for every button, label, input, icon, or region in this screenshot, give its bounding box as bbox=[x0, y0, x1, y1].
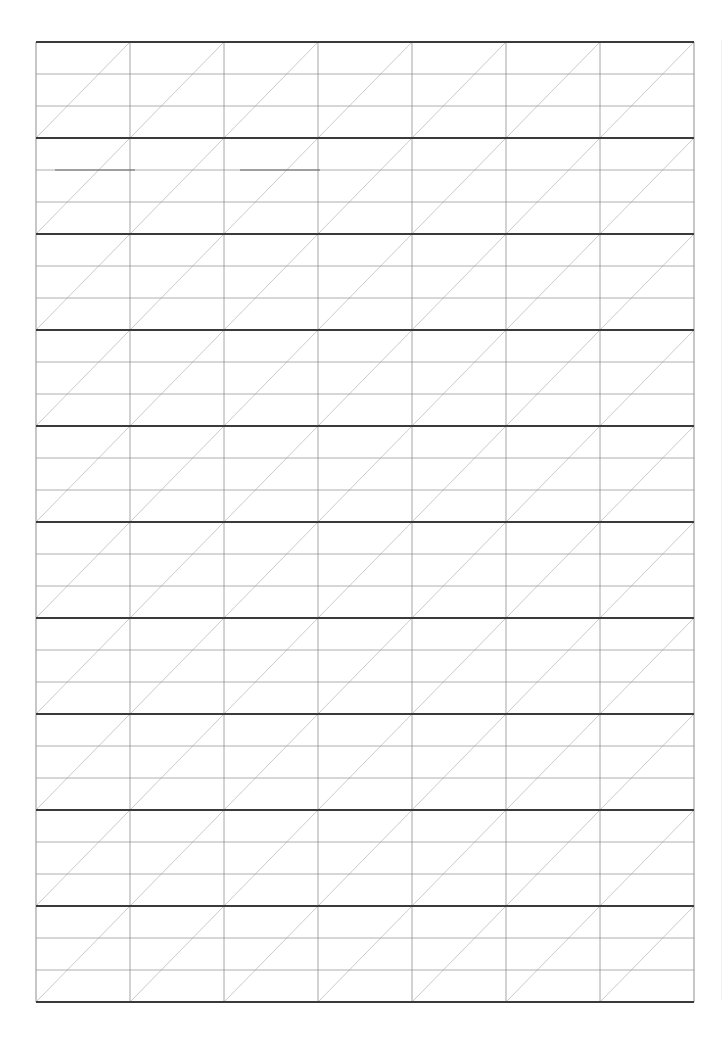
cell-diagonal bbox=[36, 330, 130, 426]
cell-diagonal bbox=[600, 42, 694, 138]
cell-diagonal bbox=[224, 906, 318, 1002]
cell-diagonal bbox=[318, 330, 412, 426]
cell-diagonal bbox=[318, 522, 412, 618]
cell-diagonal bbox=[600, 522, 694, 618]
cell-diagonal bbox=[224, 522, 318, 618]
cell-diagonal bbox=[224, 714, 318, 810]
cell-diagonal bbox=[412, 714, 506, 810]
cell-diagonal bbox=[36, 138, 130, 234]
cell-diagonal bbox=[318, 810, 412, 906]
cell-diagonal bbox=[224, 618, 318, 714]
cell-diagonal bbox=[412, 234, 506, 330]
cell-diagonal bbox=[412, 42, 506, 138]
cell-diagonal bbox=[130, 714, 224, 810]
cell-diagonal bbox=[130, 234, 224, 330]
cell-diagonal bbox=[318, 714, 412, 810]
cell-diagonal bbox=[224, 234, 318, 330]
cell-diagonal bbox=[600, 234, 694, 330]
cell-diagonal bbox=[36, 522, 130, 618]
cell-diagonal bbox=[506, 138, 600, 234]
cell-diagonal bbox=[318, 42, 412, 138]
cell-diagonal bbox=[130, 138, 224, 234]
right-margin-artifact bbox=[721, 40, 722, 1000]
writing-grid bbox=[0, 0, 724, 1048]
cell-diagonal bbox=[600, 618, 694, 714]
cell-diagonal bbox=[600, 810, 694, 906]
cell-diagonal bbox=[318, 426, 412, 522]
cell-diagonal bbox=[600, 426, 694, 522]
cell-diagonal bbox=[412, 522, 506, 618]
cell-diagonal bbox=[506, 906, 600, 1002]
cell-diagonal bbox=[600, 138, 694, 234]
cell-diagonal bbox=[412, 810, 506, 906]
cell-diagonal bbox=[412, 138, 506, 234]
cell-diagonal bbox=[412, 906, 506, 1002]
practice-sheet bbox=[0, 0, 724, 1048]
cell-diagonal bbox=[36, 426, 130, 522]
cell-diagonal bbox=[36, 810, 130, 906]
cell-diagonal bbox=[224, 810, 318, 906]
cell-diagonal bbox=[506, 426, 600, 522]
cell-diagonal bbox=[36, 42, 130, 138]
cell-diagonal bbox=[506, 42, 600, 138]
cell-diagonal bbox=[412, 330, 506, 426]
cell-diagonal bbox=[506, 618, 600, 714]
cell-diagonal bbox=[318, 234, 412, 330]
cell-diagonal bbox=[36, 618, 130, 714]
cell-diagonal bbox=[318, 138, 412, 234]
cell-diagonal bbox=[506, 714, 600, 810]
cell-diagonal bbox=[130, 522, 224, 618]
cell-diagonal bbox=[506, 522, 600, 618]
cell-diagonal bbox=[130, 330, 224, 426]
cell-diagonal bbox=[36, 906, 130, 1002]
cell-diagonal bbox=[600, 906, 694, 1002]
cell-diagonal bbox=[412, 426, 506, 522]
cell-diagonal bbox=[130, 810, 224, 906]
cell-diagonal bbox=[506, 234, 600, 330]
cell-diagonal bbox=[224, 138, 318, 234]
cell-diagonal bbox=[224, 42, 318, 138]
cell-diagonal bbox=[224, 426, 318, 522]
cell-diagonal bbox=[36, 234, 130, 330]
cell-diagonal bbox=[130, 42, 224, 138]
cell-diagonal bbox=[600, 330, 694, 426]
cell-diagonal bbox=[36, 714, 130, 810]
cell-diagonal bbox=[600, 714, 694, 810]
cell-diagonal bbox=[130, 426, 224, 522]
cell-diagonal bbox=[506, 330, 600, 426]
cell-diagonal bbox=[318, 618, 412, 714]
cell-diagonal bbox=[412, 618, 506, 714]
cell-diagonal bbox=[130, 618, 224, 714]
cell-diagonal bbox=[506, 810, 600, 906]
cell-diagonal bbox=[318, 906, 412, 1002]
cell-diagonal bbox=[130, 906, 224, 1002]
cell-diagonal bbox=[224, 330, 318, 426]
